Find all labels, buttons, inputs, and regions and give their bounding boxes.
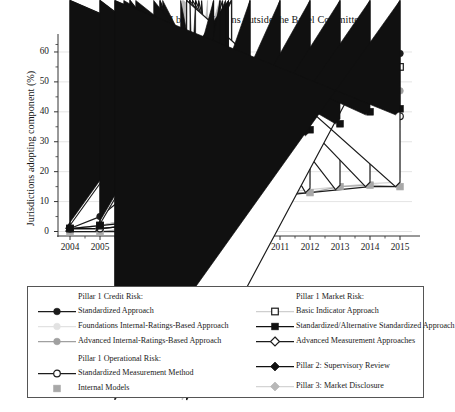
legend-item[interactable]: Pillar 2: Supervisory Review [254,359,390,372]
legend-column-left: Pillar 1 Credit Risk:Standardized Approa… [32,287,250,399]
legend-marker [272,323,279,330]
legend-swatch-pillar-3-market-disclosure [254,379,296,392]
legend-item[interactable]: Standardized Approach [36,304,154,317]
legend-item[interactable]: Basic Indicator Approach [254,304,379,317]
legend-column-right: Pillar 1 Market Risk:Basic Indicator App… [250,287,422,399]
legend-marker [271,382,280,391]
legend-label: Foundations Internal-Ratings-Based Appro… [78,319,229,332]
legend-marker [271,337,280,346]
legend-label: Standardized Measurement Method [78,366,194,379]
legend-swatch-standardized-measurement-method [36,366,78,379]
legend-group-header: Pillar 1 Operational Risk: [78,354,161,363]
legend-item[interactable]: Standardized/Alternative Standardized Ap… [254,319,455,332]
legend-marker [54,385,61,392]
legend-marker [54,323,61,330]
legend-label: Basic Indicator Approach [296,304,379,317]
legend-group-header: Pillar 1 Credit Risk: [78,292,143,301]
legend-label: Pillar 3: Market Disclosure [296,379,384,392]
legend-item[interactable]: Foundations Internal-Ratings-Based Appro… [36,319,229,332]
legend-swatch-standardized-approach [36,304,78,317]
legend-item[interactable]: Pillar 3: Market Disclosure [254,379,384,392]
legend-swatch-pillar-2-supervisory-review [254,359,296,372]
legend-label: Standardized/Alternative Standardized Ap… [296,319,455,332]
legend-marker [54,370,61,377]
legend-swatch-basic-indicator-approach [254,304,296,317]
legend-label: Internal Models [78,381,129,394]
legend-item[interactable]: Advanced Measurement Approaches [254,334,415,347]
legend-label: Advanced Internal-Ratings-Based Approach [78,334,221,347]
legend-item[interactable]: Standardized Measurement Method [36,366,194,379]
legend: Pillar 1 Credit Risk:Standardized Approa… [27,286,424,398]
legend-label: Advanced Measurement Approaches [296,334,415,347]
legend-swatch-advanced-internal-ratings-based-approach [36,334,78,347]
legend-group-header: Pillar 1 Market Risk: [296,292,364,301]
legend-swatch-advanced-measurement-approaches [254,334,296,347]
legend-swatch-foundations-internal-ratings-based-approach [36,319,78,332]
legend-marker [271,362,280,371]
legend-item[interactable]: Internal Models [36,381,129,394]
legend-item[interactable]: Advanced Internal-Ratings-Based Approach [36,334,221,347]
legend-swatch-internal-models [36,381,78,394]
legend-label: Standardized Approach [78,304,154,317]
legend-marker [54,338,61,345]
legend-marker [272,308,279,315]
legend-label: Pillar 2: Supervisory Review [296,359,390,372]
legend-swatch-standardized-alternative-standardized-approach [254,319,296,332]
legend-marker [54,308,61,315]
